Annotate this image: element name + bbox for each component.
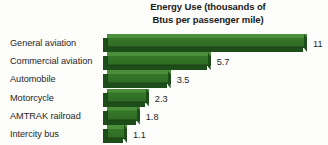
- value-label: 5.7: [217, 57, 230, 67]
- category-label: Commercial aviation: [10, 56, 92, 66]
- chart-title-line-2: Btus per passenger mile): [108, 14, 308, 27]
- value-label: 2.3: [155, 94, 168, 104]
- bar-row: General aviation11: [0, 34, 328, 52]
- category-label: AMTRAK railroad: [10, 111, 81, 121]
- energy-use-bar-chart: Energy Use (thousands of Btus per passen…: [0, 0, 328, 145]
- bar: [107, 89, 149, 107]
- bar: [107, 70, 171, 88]
- category-label: Automobile: [10, 74, 55, 84]
- bar-row: Commercial aviation5.7: [0, 52, 328, 70]
- chart-title: Energy Use (thousands of Btus per passen…: [108, 1, 308, 26]
- category-label: Intercity bus: [10, 129, 59, 139]
- value-label: 1.8: [146, 112, 159, 122]
- bar: [107, 125, 127, 143]
- bar: [107, 107, 140, 125]
- bar-top-face: [107, 34, 307, 38]
- bar-top-face: [107, 107, 140, 111]
- value-label: 1.1: [133, 130, 146, 140]
- value-label: 3.5: [177, 75, 190, 85]
- bar-row: Intercity bus1.1: [0, 125, 328, 143]
- bar: [107, 52, 211, 70]
- bar-top-face: [107, 52, 211, 56]
- bar: [107, 34, 307, 52]
- value-label: 11: [313, 39, 323, 49]
- bar-row: Motorcycle2.3: [0, 89, 328, 107]
- category-label: Motorcycle: [10, 93, 54, 103]
- bar-row: AMTRAK railroad1.8: [0, 107, 328, 125]
- bar-row: Automobile3.5: [0, 70, 328, 88]
- bar-top-face: [107, 89, 149, 93]
- category-label: General aviation: [10, 38, 76, 48]
- bar-top-face: [107, 70, 171, 74]
- plot-area: General aviation11Commercial aviation5.7…: [0, 34, 328, 145]
- chart-title-line-1: Energy Use (thousands of: [108, 1, 308, 14]
